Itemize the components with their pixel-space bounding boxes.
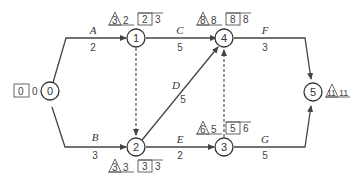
edge-label-B: B (92, 131, 99, 143)
svg-text:2: 2 (142, 14, 148, 25)
edge-duration-E: 2 (177, 150, 183, 161)
edge-F: F 3 (234, 24, 311, 79)
edge-label-F: F (261, 24, 269, 36)
node-0-earliest: 0 (18, 86, 24, 97)
edge-D: D 5 (142, 47, 218, 140)
node-0-latest: 0 (32, 86, 38, 97)
svg-text:3: 3 (142, 161, 148, 172)
node-2: 2 3 3 3 3 (108, 138, 163, 173)
svg-text:11: 11 (327, 88, 336, 98)
edge-label-C: C (176, 24, 184, 36)
svg-text:4: 4 (221, 32, 227, 44)
svg-text:3: 3 (155, 14, 161, 25)
svg-text:8: 8 (200, 15, 206, 26)
svg-text:3: 3 (155, 161, 161, 172)
edge-E: E 2 (146, 133, 214, 161)
svg-text:8: 8 (211, 15, 217, 26)
edge-duration-G: 5 (262, 150, 268, 161)
svg-text:6: 6 (200, 124, 206, 135)
edge-B: B 3 (52, 107, 126, 161)
svg-text:0: 0 (47, 85, 53, 97)
edge-label-D: D (171, 79, 180, 91)
node-1: 1 3 2 2 3 (108, 12, 163, 47)
edge-label-A: A (89, 24, 97, 36)
edge-duration-B: 3 (92, 150, 98, 161)
svg-text:5: 5 (211, 124, 217, 135)
node-4: 4 8 8 8 8 (196, 12, 251, 47)
edge-duration-C: 5 (177, 42, 183, 53)
edge-duration-A: 2 (90, 42, 96, 53)
svg-text:2: 2 (133, 141, 139, 153)
edge-C: C 5 (146, 24, 216, 53)
svg-text:3: 3 (221, 141, 227, 153)
edge-A: A 2 (52, 24, 126, 86)
svg-text:3: 3 (112, 15, 118, 26)
edge-duration-F: 3 (262, 42, 268, 53)
edge-duration-D: 5 (180, 94, 186, 105)
svg-text:8: 8 (243, 14, 249, 25)
svg-text:5: 5 (310, 86, 316, 98)
svg-text:6: 6 (243, 123, 249, 134)
svg-text:1: 1 (133, 32, 139, 44)
node-0: 0 0 0 (14, 82, 59, 100)
svg-text:2: 2 (123, 15, 129, 26)
svg-text:11: 11 (339, 88, 348, 98)
edge-label-E: E (176, 133, 184, 145)
svg-text:3: 3 (112, 162, 118, 173)
svg-text:8: 8 (230, 14, 236, 25)
svg-text:3: 3 (123, 162, 129, 173)
network-diagram: A 2 B 3 C 5 D 5 E 2 F 3 G 5 0 0 0 (0, 0, 357, 181)
node-5: 5 11 11 (304, 83, 350, 101)
svg-text:5: 5 (230, 123, 236, 134)
edge-label-G: G (261, 133, 269, 145)
